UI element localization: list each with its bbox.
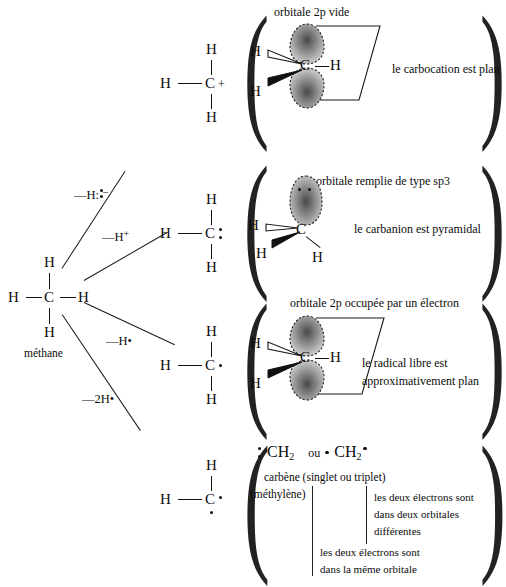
panel3-conclusion-line2: approximativement plan bbox=[362, 374, 479, 389]
panel3-model-h-upper: H bbox=[250, 336, 261, 351]
carbanion-carbon: C bbox=[205, 226, 215, 241]
carbanion-h-left: H bbox=[160, 226, 171, 241]
carbene-vrule-outer bbox=[312, 486, 313, 576]
panel3-conclusion-line1: le radical libre est bbox=[362, 356, 448, 371]
panel2-solid-wedge bbox=[268, 230, 302, 252]
intermediate-carbene: H H C bbox=[158, 458, 248, 528]
reagent-charge-hydride: – bbox=[103, 186, 108, 197]
radical-single-electron-dot bbox=[219, 364, 222, 367]
carbene-note-triplet-line2: dans deux orbitales bbox=[374, 508, 459, 521]
reagent-text-h-radical: —H• bbox=[106, 334, 132, 348]
carbene-conjunction: ou bbox=[308, 446, 320, 460]
radical-h-left: H bbox=[160, 358, 171, 373]
carbanion-panel: ( ) orbitale remplie de type sp3 C H H H bbox=[244, 150, 502, 295]
panel2-right-paren: ) bbox=[480, 144, 505, 294]
carbene-triplet-dot-right bbox=[363, 447, 366, 450]
methane-structure: H H C H H méthane bbox=[6, 255, 116, 350]
carbocation-panel: ( ) orbitale 2p vide bbox=[244, 0, 502, 145]
carbene-bond-left bbox=[178, 499, 202, 500]
carbene-singlet-formula: CH2 bbox=[267, 443, 294, 460]
carbanion-lone-pair-dot-lower bbox=[219, 236, 222, 239]
carbene-note-singlet-line1: les deux électrons sont bbox=[320, 546, 420, 559]
radical-h-top: H bbox=[206, 324, 217, 339]
radical-bond-bottom bbox=[211, 376, 212, 391]
panel3-model-h-lower: H bbox=[250, 376, 261, 391]
carbene-bond-top bbox=[211, 476, 212, 491]
methane-bond-bottom bbox=[49, 308, 50, 324]
carbocation-bond-bottom bbox=[211, 94, 212, 109]
reagent-label-radical: —H• bbox=[106, 334, 132, 349]
radical-bond-top bbox=[211, 342, 212, 357]
carbene-caption-line1: carbène (singlet ou triplet) bbox=[264, 471, 386, 485]
carbene-triplet-dot-left bbox=[325, 451, 328, 454]
carbocation-carbon: C bbox=[205, 76, 215, 91]
intermediate-carbocation: H H C + H bbox=[158, 42, 248, 132]
panel3-solid-wedge bbox=[262, 358, 304, 382]
carbanion-h-bottom: H bbox=[206, 260, 217, 275]
methane-caption: méthane bbox=[24, 347, 63, 361]
carbene-carbon: C bbox=[205, 492, 215, 507]
radical-h-bottom: H bbox=[206, 392, 217, 407]
carbene-caption-line2: (méthylène) bbox=[250, 488, 306, 502]
reagent-text-proton: —H bbox=[102, 230, 124, 244]
panel1-model-bond-right bbox=[315, 66, 329, 67]
intermediate-radical: H H C H bbox=[158, 324, 248, 414]
carbene-electron-dot-right bbox=[219, 496, 222, 499]
carbocation-h-left: H bbox=[160, 76, 171, 91]
carbene-singlet-dot-upper bbox=[258, 447, 261, 450]
panel2-bond-bottom-right bbox=[306, 236, 321, 248]
methane-h-left: H bbox=[8, 290, 19, 305]
carbene-note-triplet-line1: les deux électrons sont bbox=[374, 491, 474, 504]
carbocation-charge: + bbox=[218, 77, 225, 92]
methane-h-bottom: H bbox=[44, 325, 55, 340]
carbene-panel: ( ) CH2 ou CH2 carbène (singlet ou tripl… bbox=[244, 430, 502, 581]
carbene-formula-line: CH2 ou CH2 bbox=[258, 443, 361, 462]
carbanion-bond-bottom bbox=[211, 244, 212, 259]
panel2-model-h-wedge: H bbox=[256, 246, 267, 261]
reagent-label-carbanion: —H+ bbox=[102, 228, 129, 245]
carbocation-bond-top bbox=[211, 60, 212, 75]
carbanion-bond-left bbox=[178, 233, 202, 234]
methane-bond-right bbox=[60, 297, 76, 298]
panel1-solid-wedge bbox=[262, 66, 304, 90]
hydride-dot-lower bbox=[100, 195, 103, 198]
carbene-electron-dot-below bbox=[210, 511, 213, 514]
panel2-orbital-label: orbitale remplie de type sp3 bbox=[316, 174, 450, 189]
carbanion-h-top: H bbox=[206, 192, 217, 207]
carbanion-bond-top bbox=[211, 210, 212, 225]
panel2-model-h-bottom: H bbox=[312, 250, 323, 265]
carbene-note-singlet-line2: dans la même orbitale bbox=[320, 563, 417, 576]
panel3-model-h-right: H bbox=[330, 350, 341, 365]
reagent-label-carbene: —2H• bbox=[82, 392, 114, 407]
methane-bond-top bbox=[49, 273, 50, 289]
carbocation-bond-left bbox=[178, 83, 202, 84]
carbene-triplet-formula: CH2 bbox=[334, 443, 361, 460]
reagent-charge-proton: + bbox=[124, 228, 130, 239]
carbene-singlet-dot-lower bbox=[258, 455, 261, 458]
intermediate-carbanion: H H C H bbox=[158, 192, 248, 282]
reagent-text-hydride: —H: bbox=[74, 188, 99, 202]
radical-panel: ( ) orbitale 2p occupée par un électron bbox=[244, 288, 502, 433]
carbene-vrule-inner bbox=[366, 486, 367, 544]
carbene-h-left: H bbox=[160, 492, 171, 507]
panel2-model-h-left: H bbox=[248, 218, 259, 233]
panel1-model-h-right: H bbox=[330, 58, 341, 73]
carbocation-h-bottom: H bbox=[206, 110, 217, 125]
methane-carbon: C bbox=[44, 290, 54, 305]
panel2-conclusion: le carbanion est pyramidal bbox=[354, 222, 481, 237]
radical-carbon: C bbox=[205, 358, 215, 373]
panel1-model-h-lower: H bbox=[250, 84, 261, 99]
carbanion-lone-pair-dot-upper bbox=[219, 228, 222, 231]
panel1-model-h-upper: H bbox=[250, 44, 261, 59]
hydride-dot-upper bbox=[100, 189, 103, 192]
reagent-text-2h-radical: —2H• bbox=[82, 392, 114, 406]
radical-bond-left bbox=[178, 365, 202, 366]
panel1-conclusion: le carbocation est plan bbox=[392, 62, 500, 77]
carbene-h-top: H bbox=[206, 458, 217, 473]
panel3-model-bond-right bbox=[315, 358, 329, 359]
methane-bond-left bbox=[26, 297, 42, 298]
carbocation-h-top: H bbox=[206, 42, 217, 57]
panel4-right-paren: ) bbox=[480, 424, 506, 579]
reagent-label-carbocation: —H:– bbox=[74, 186, 108, 203]
